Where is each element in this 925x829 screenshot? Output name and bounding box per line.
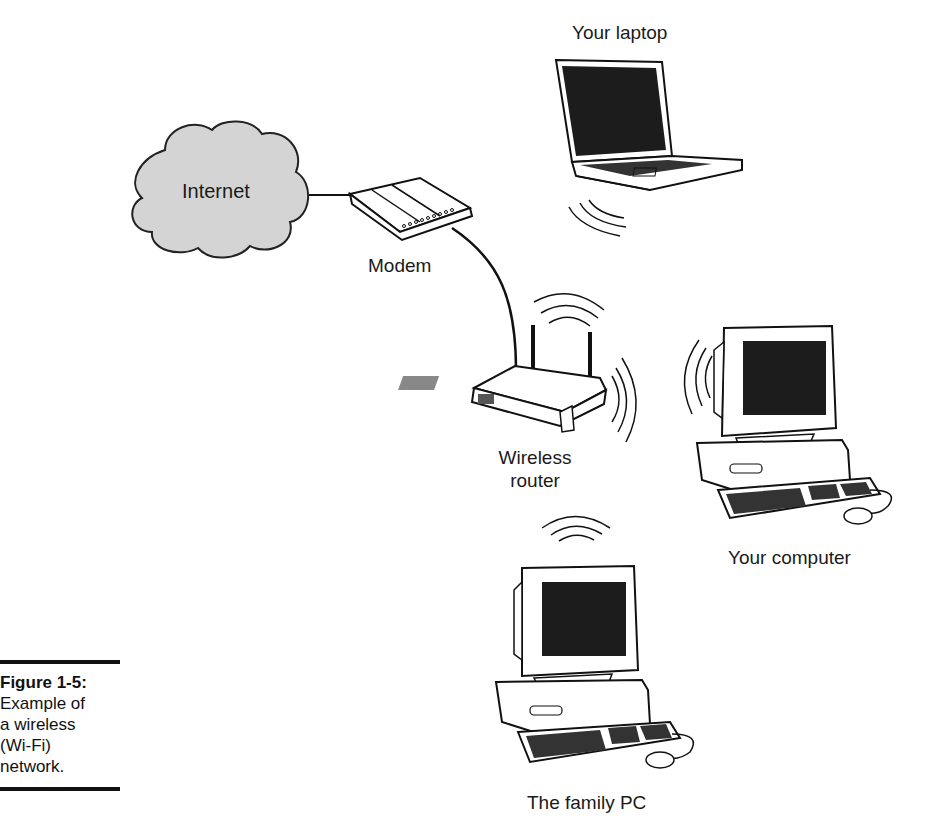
internet-label: Internet: [182, 180, 250, 203]
caption-line: Example of: [0, 693, 120, 714]
caption-top-rule: [0, 660, 120, 664]
modem-icon: [350, 178, 472, 240]
network-diagram: [0, 0, 925, 829]
figure-caption: Figure 1-5: Example of a wireless (Wi-Fi…: [0, 660, 120, 791]
wifi-waves-icon: [569, 200, 626, 236]
computer-label: Your computer: [728, 547, 851, 569]
router-label-line2: router: [485, 469, 585, 492]
laptop-icon: [556, 60, 742, 190]
modem-router-cable: [452, 228, 516, 370]
wifi-waves-icon: [684, 340, 712, 414]
modem-label: Modem: [368, 255, 431, 277]
laptop-label: Your laptop: [572, 22, 667, 44]
caption-bottom-rule: [0, 787, 120, 791]
router-label-line1: Wireless: [485, 446, 585, 469]
caption-line: a wireless: [0, 714, 120, 735]
family-pc-icon: [496, 566, 693, 768]
wifi-waves-icon: [534, 294, 604, 326]
caption-title: Figure 1-5:: [0, 672, 120, 693]
family-pc-label: The family PC: [527, 792, 646, 814]
wifi-waves-icon: [612, 358, 636, 442]
caption-line: network.: [0, 756, 120, 777]
router-label: Wireless router: [485, 446, 585, 492]
caption-line: (Wi-Fi): [0, 735, 120, 756]
desktop-computer-icon: [684, 326, 891, 524]
wifi-waves-icon: [542, 517, 610, 542]
wireless-router-icon: [398, 325, 606, 432]
